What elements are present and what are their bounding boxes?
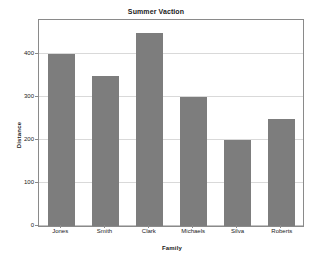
bar-slot [127,20,171,226]
y-axis-tick-mark [35,182,38,183]
chart-title: Summer Vaction [0,7,312,16]
y-axis-tick-label: 300 [10,93,34,99]
bar-chart-figure: Summer Vaction Distance 0100200300400 Jo… [0,0,312,269]
bar-roberts[interactable] [268,119,295,226]
x-axis-ticks-group: JonesSmithClarkMichaelsSilvaRoberts [38,228,304,240]
bar-slot [171,20,215,226]
y-axis-tick-label: 400 [10,50,34,56]
bar-jones[interactable] [48,54,75,226]
x-axis-tick-mark [60,225,61,228]
y-axis-label: Distance [16,121,22,148]
x-axis-tick-label: Clark [127,228,171,240]
y-axis-tick-mark [35,96,38,97]
bar-slot [259,20,303,226]
bar-slot [39,20,83,226]
bar-slot [215,20,259,226]
y-axis-tick-label: 100 [10,179,34,185]
y-axis-tick-mark [35,139,38,140]
bar-slot [83,20,127,226]
x-axis-tick-label: Smith [82,228,126,240]
x-axis-tick-label: Roberts [260,228,304,240]
plot-inner [39,20,303,226]
bar-silva[interactable] [224,140,251,226]
bar-clark[interactable] [136,33,163,226]
y-axis-tick-label: 0 [10,222,34,228]
y-axis-tick-mark [35,225,38,226]
x-axis-tick-label: Jones [38,228,82,240]
y-axis-tick-mark [35,53,38,54]
x-axis-tick-label: Michaels [171,228,215,240]
x-axis-tick-label: Silva [215,228,259,240]
plot-area [38,19,304,227]
bar-smith[interactable] [92,76,119,226]
x-axis-tick-mark [280,225,281,228]
bars-group [39,20,303,226]
x-axis-tick-mark [192,225,193,228]
x-axis-tick-mark [148,225,149,228]
x-axis-tick-mark [104,225,105,228]
x-axis-tick-mark [236,225,237,228]
bar-michaels[interactable] [180,97,207,226]
y-axis-tick-label: 200 [10,136,34,142]
x-axis-label: Family [38,245,306,251]
